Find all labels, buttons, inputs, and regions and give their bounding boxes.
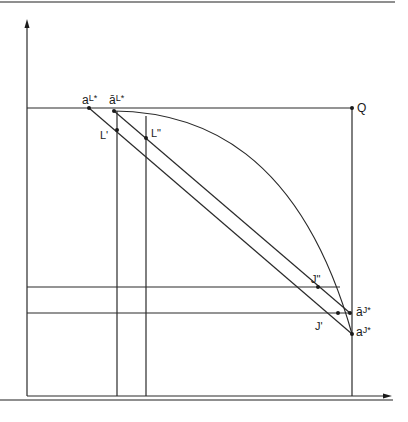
label-abar-L-star: āL* [109,93,125,107]
point-Q [350,106,354,110]
label-Q: Q [357,101,366,115]
label-L-double-prime: L" [151,127,161,139]
point-abar-J-star [348,311,352,315]
label-a-L-star: aL* [82,93,98,107]
y-axis-arrow-icon [25,19,30,28]
label-a-J-star: aJ* [356,325,371,339]
point-abar-L-star [112,109,116,113]
point-L-double-prime [144,136,148,140]
point-L-prime [115,128,119,132]
point-J-prime [336,311,340,315]
point-a-J-star [350,332,354,336]
diagonal-line-a [89,108,352,334]
point-J-double-prime [316,285,320,289]
x-axis-arrow-icon [383,394,392,399]
label-L-prime: L' [100,129,108,141]
label-J-double-prime: J" [311,273,321,285]
box-diagram: aL* āL* L' L" Q J" J' āJ* aJ* [0,0,408,422]
label-abar-J-star: āJ* [356,305,371,319]
frontier-curve [114,111,352,334]
label-J-prime: J' [315,320,323,332]
